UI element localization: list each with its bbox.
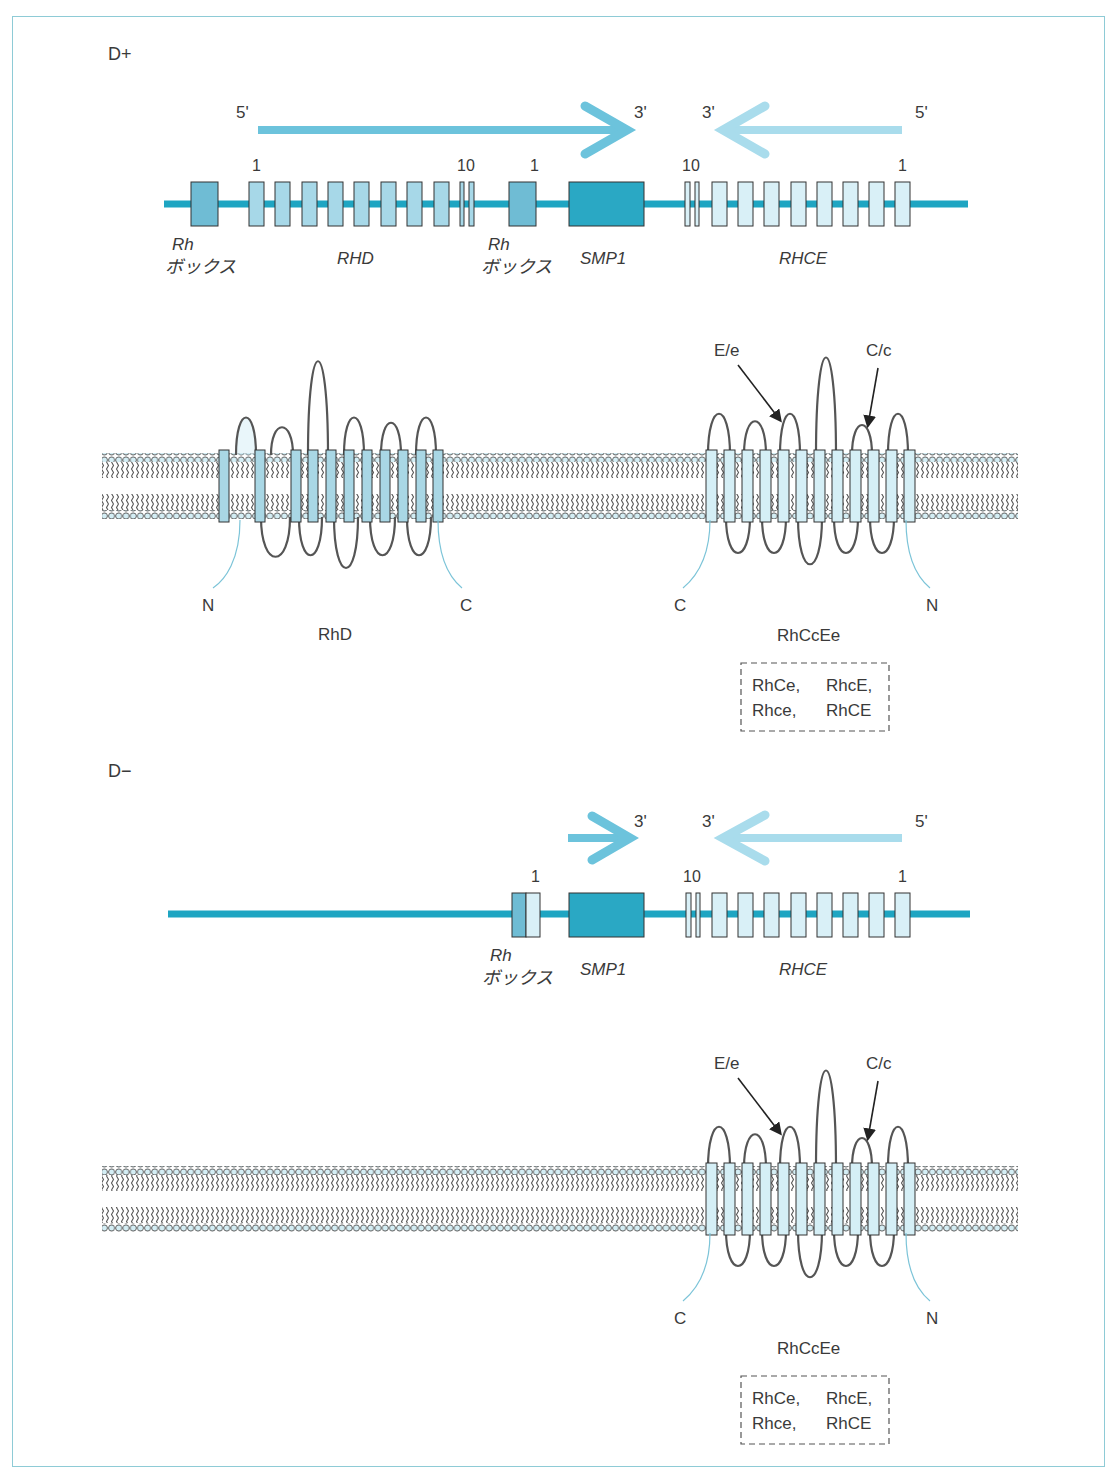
n-terminus-label: N bbox=[926, 1309, 938, 1328]
rh-gene-protein-diagram: D+ 5' 3' 3' 5' bbox=[0, 0, 1110, 1482]
rh-box-exon bbox=[509, 182, 536, 226]
section-label-d-negative: D− bbox=[108, 761, 132, 781]
prime-label-hybrid-3: 3' bbox=[634, 812, 647, 831]
e-antigen-pointer bbox=[738, 1078, 780, 1133]
variant-rhce-1: RhCe, bbox=[752, 1389, 800, 1408]
rh-box-label: Rh bbox=[490, 946, 512, 965]
smp1-gene-block bbox=[569, 893, 644, 937]
c-terminus-tail bbox=[683, 1233, 710, 1301]
c-terminus-tail bbox=[438, 520, 462, 588]
rhce-exons bbox=[685, 182, 910, 226]
exon-number-rhd-10: 10 bbox=[457, 157, 475, 174]
rhccee-protein: E/e C/c C N RhCcEe RhCe, RhcE, Rhce, RhC… bbox=[674, 1054, 938, 1444]
protein-name-rhccee: RhCcEe bbox=[777, 626, 840, 645]
n-terminus-label: N bbox=[926, 596, 938, 615]
antigen-label-c: C/c bbox=[866, 1054, 892, 1073]
n-terminus-tail bbox=[906, 1233, 930, 1301]
gene-label-rhce: RHCE bbox=[779, 249, 828, 268]
rhd-strand-arrow bbox=[258, 106, 627, 154]
prime-label-rhce-5: 5' bbox=[915, 103, 928, 122]
variant-rhce-3: Rhce, bbox=[752, 1414, 796, 1433]
c-terminus-label: C bbox=[674, 1309, 686, 1328]
exon-number-rhbox-1: 1 bbox=[530, 157, 539, 174]
smp1-gene-block bbox=[569, 182, 644, 226]
exon-number-rhce-1: 1 bbox=[898, 868, 907, 885]
prime-label-rhce-3: 3' bbox=[702, 103, 715, 122]
rh-box-label-jp: ボックス bbox=[481, 257, 552, 277]
gene-label-smp1: SMP1 bbox=[580, 960, 626, 979]
n-terminus-tail bbox=[213, 520, 240, 588]
e-antigen-pointer bbox=[738, 365, 780, 420]
antigen-label-e: E/e bbox=[714, 1054, 740, 1073]
variant-rhce-4: RhCE bbox=[826, 701, 871, 720]
antigen-label-e: E/e bbox=[714, 341, 740, 360]
section-label-d-positive: D+ bbox=[108, 44, 132, 64]
section-d-negative: D− 3' 3' 5' 1 1 bbox=[102, 761, 1018, 1444]
exon-number-rhce-10: 10 bbox=[683, 868, 701, 885]
gene-label-rhd: RHD bbox=[337, 249, 374, 268]
prime-label-rhd-5: 5' bbox=[236, 103, 249, 122]
rhce-strand-arrow bbox=[722, 106, 902, 154]
c-terminus-tail bbox=[683, 520, 710, 588]
gene-label-rhce: RHCE bbox=[779, 960, 828, 979]
variants-box bbox=[741, 663, 889, 731]
rh-box-exon bbox=[191, 182, 218, 226]
exon-number-rhd-1: 1 bbox=[252, 157, 261, 174]
section-d-positive: D+ 5' 3' 3' 5' bbox=[102, 44, 1018, 731]
exon-number-rhce-1: 1 bbox=[898, 157, 907, 174]
rhce-strand-arrow bbox=[722, 815, 902, 861]
exon-number-hybrid-1: 1 bbox=[531, 868, 540, 885]
protein-name-rhd: RhD bbox=[318, 625, 352, 644]
prime-label-rhce-5: 5' bbox=[915, 812, 928, 831]
lipid-bilayer bbox=[102, 453, 1018, 519]
gene-label-smp1: SMP1 bbox=[580, 249, 626, 268]
rh-box-label-jp: ボックス bbox=[165, 257, 236, 277]
hybrid-rh-box-exon bbox=[512, 893, 540, 937]
lipid-bilayer bbox=[102, 1166, 1018, 1232]
hybrid-strand-arrow bbox=[568, 816, 630, 860]
exon-number-rhce-10: 10 bbox=[682, 157, 700, 174]
rh-box-label-jp: ボックス bbox=[482, 968, 553, 988]
rhd-exons bbox=[249, 182, 474, 226]
rh-box-label: Rh bbox=[488, 235, 510, 254]
rhccee-protein: E/e C/c C N RhCcEe RhCe, RhcE, Rhce, RhC… bbox=[674, 341, 938, 731]
protein-name-rhccee: RhCcEe bbox=[777, 1339, 840, 1358]
n-terminus-tail bbox=[906, 520, 930, 588]
variant-rhce-3: Rhce, bbox=[752, 701, 796, 720]
n-terminus-label: N bbox=[202, 596, 214, 615]
prime-label-rhd-3: 3' bbox=[634, 103, 647, 122]
variant-rhce-1: RhCe, bbox=[752, 676, 800, 695]
rhce-exons bbox=[686, 893, 910, 937]
antigen-label-c: C/c bbox=[866, 341, 892, 360]
c-antigen-pointer bbox=[868, 368, 878, 425]
variant-rhce-2: RhcE, bbox=[826, 676, 872, 695]
prime-label-rhce-3: 3' bbox=[702, 812, 715, 831]
rh-box-label: Rh bbox=[172, 235, 194, 254]
c-terminus-label: C bbox=[674, 596, 686, 615]
variant-rhce-2: RhcE, bbox=[826, 1389, 872, 1408]
variants-box bbox=[741, 1376, 889, 1444]
variant-rhce-4: RhCE bbox=[826, 1414, 871, 1433]
c-antigen-pointer bbox=[868, 1081, 878, 1138]
c-terminus-label: C bbox=[460, 596, 472, 615]
